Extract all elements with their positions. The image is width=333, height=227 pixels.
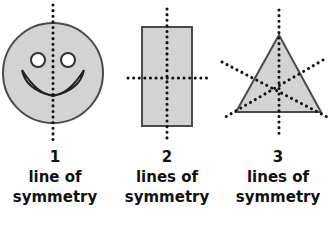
caption-line-1: lines of <box>112 167 222 187</box>
caption-smiley: 1 line of symmetry <box>0 147 110 207</box>
count: 2 <box>112 147 222 167</box>
caption-triangle: 3 lines of symmetry <box>223 147 333 207</box>
caption-line-2: symmetry <box>223 187 333 207</box>
left-eye <box>31 53 45 67</box>
count: 3 <box>223 147 333 167</box>
caption-line-1: line of <box>0 167 110 187</box>
smiley-face <box>3 5 103 143</box>
count: 1 <box>0 147 110 167</box>
caption-rectangle: 2 lines of symmetry <box>112 147 222 207</box>
right-eye <box>61 53 75 67</box>
caption-line-2: symmetry <box>112 187 222 207</box>
caption-line-2: symmetry <box>0 187 110 207</box>
rectangle-shape <box>128 9 208 143</box>
triangle-shape <box>222 10 331 138</box>
symmetry-figures <box>0 0 333 145</box>
caption-line-1: lines of <box>223 167 333 187</box>
